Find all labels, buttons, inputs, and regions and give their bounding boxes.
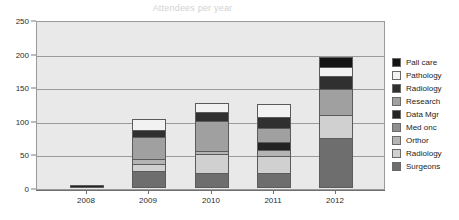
legend-item[interactable]: Med onc	[392, 121, 459, 134]
legend-item-label: Orthor	[406, 136, 429, 145]
x-axis-tick-mark	[211, 190, 212, 194]
legend-swatch-icon	[392, 162, 401, 171]
chart-container: Attendees per year 050100150200250 Pall …	[0, 0, 459, 220]
bar-segment-radiology[interactable]	[319, 76, 353, 88]
bar-segment-research[interactable]	[195, 121, 229, 151]
chart-legend: Pall carePathologyRadiologyResearchData …	[392, 56, 459, 173]
bar-segment-orthor[interactable]	[195, 151, 229, 154]
y-axis-tick-label: 150	[16, 84, 29, 93]
bar-2011[interactable]	[257, 104, 291, 188]
x-axis-tick-mark	[86, 190, 87, 194]
bar-segment-surgeons[interactable]	[195, 173, 229, 188]
bar-segment-surgeons[interactable]	[319, 138, 353, 188]
x-axis-tick-label: 2012	[326, 196, 344, 205]
plot-area	[36, 21, 385, 190]
bar-2009[interactable]	[132, 119, 166, 188]
legend-item-label: Med onc	[406, 123, 437, 132]
x-axis-tick-label: 2009	[139, 196, 157, 205]
bar-segment-pathology[interactable]	[195, 103, 229, 112]
bar-segment-surgeons[interactable]	[132, 171, 166, 188]
bar-segment-research[interactable]	[257, 128, 291, 141]
bar-2008[interactable]	[70, 185, 104, 188]
legend-swatch-icon	[392, 110, 401, 119]
legend-item-label: Research	[406, 97, 440, 106]
legend-item-label: Radiology	[406, 149, 442, 158]
bar-segment-pall-care[interactable]	[319, 57, 353, 67]
bar-segment-radiology[interactable]	[195, 154, 229, 173]
legend-swatch-icon	[392, 84, 401, 93]
legend-item[interactable]: Research	[392, 95, 459, 108]
legend-item-label: Data Mgr	[406, 110, 439, 119]
legend-item-label: Pathology	[406, 71, 442, 80]
bar-segment-research[interactable]	[319, 89, 353, 116]
x-axis-tick-mark	[148, 190, 149, 194]
legend-item[interactable]: Pathology	[392, 69, 459, 82]
bar-2010[interactable]	[195, 103, 229, 188]
y-axis-tick-label: 200	[16, 50, 29, 59]
bar-segment-radiology[interactable]	[132, 130, 166, 137]
bar-segment-orthor[interactable]	[257, 150, 291, 156]
bar-segment-surgeons[interactable]	[257, 173, 291, 188]
bar-segment-radiology[interactable]	[257, 156, 291, 173]
legend-swatch-icon	[392, 136, 401, 145]
y-axis-tick-label: 50	[20, 151, 29, 160]
bar-segment-pathology[interactable]	[132, 119, 166, 130]
x-axis-tick-label: 2010	[202, 196, 220, 205]
y-axis: 050100150200250	[0, 21, 36, 191]
y-axis-tick-label: 0	[25, 185, 29, 194]
legend-swatch-icon	[392, 97, 401, 106]
legend-item-label: Radiology	[406, 84, 442, 93]
bar-segment-data-mgr[interactable]	[70, 185, 104, 188]
bar-segment-pathology[interactable]	[257, 104, 291, 117]
legend-item[interactable]: Surgeons	[392, 160, 459, 173]
x-axis-tick-label: 2008	[77, 196, 95, 205]
legend-item[interactable]: Radiology	[392, 147, 459, 160]
legend-swatch-icon	[392, 123, 401, 132]
y-axis-tick-label: 100	[16, 117, 29, 126]
legend-item[interactable]: Pall care	[392, 56, 459, 69]
x-axis-tick-mark	[273, 190, 274, 194]
bar-segment-research[interactable]	[132, 137, 166, 159]
bar-segment-radiology[interactable]	[195, 112, 229, 121]
bar-segment-radiology[interactable]	[132, 164, 166, 171]
bar-segment-orthor[interactable]	[132, 159, 166, 164]
legend-item-label: Pall care	[406, 58, 437, 67]
legend-item[interactable]: Orthor	[392, 134, 459, 147]
bar-2012[interactable]	[319, 57, 353, 188]
y-axis-tick-label: 250	[16, 17, 29, 26]
legend-swatch-icon	[392, 58, 401, 67]
chart-title: Attendees per year	[0, 3, 385, 13]
legend-item[interactable]: Data Mgr	[392, 108, 459, 121]
x-axis-tick-label: 2011	[264, 196, 281, 205]
legend-swatch-icon	[392, 71, 401, 80]
x-axis-tick-mark	[335, 190, 336, 194]
bar-segment-data-mgr[interactable]	[257, 142, 291, 151]
legend-item-label: Surgeons	[406, 162, 440, 171]
bar-segment-pathology[interactable]	[319, 67, 353, 76]
legend-swatch-icon	[392, 149, 401, 158]
bar-segment-radiology[interactable]	[319, 115, 353, 137]
bar-segment-radiology[interactable]	[257, 117, 291, 128]
legend-item[interactable]: Radiology	[392, 82, 459, 95]
